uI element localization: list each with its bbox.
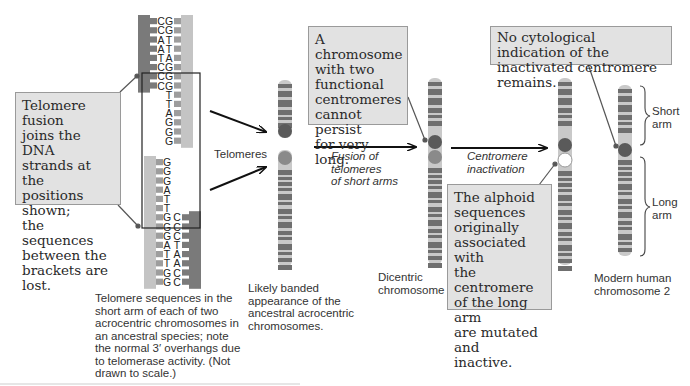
dicentric-callout-line: with two (315, 62, 401, 77)
modern-chromosome-2 (618, 85, 632, 256)
base-rung (156, 251, 163, 257)
chromosome-band (428, 186, 442, 189)
chromosome-band (428, 235, 442, 238)
centromere-functional (428, 135, 442, 149)
dicentric-callout-leader (408, 97, 427, 142)
chromosome-band (618, 105, 632, 112)
no-indication-callout: No cytological indication of the inactiv… (490, 26, 672, 65)
chromosome-band (618, 172, 632, 176)
short-arm-line: Short (652, 105, 680, 118)
long-arm-label: Long arm (652, 196, 678, 221)
chromosome-band (278, 202, 292, 205)
chromosome-band (618, 242, 632, 245)
chromosome-band (278, 265, 292, 270)
dicentric-caption-line: Dicentric (378, 271, 444, 284)
inactivation-step-line: Centromere (467, 150, 528, 163)
chromosome-band (618, 96, 632, 102)
chromosome-band (278, 84, 292, 88)
modern-caption-line: Modern human (594, 272, 671, 285)
centromere (618, 143, 632, 157)
dna-caption-line: short arm of each of two (95, 305, 255, 318)
chromosome-band (558, 223, 572, 229)
chromosome-band (428, 250, 442, 253)
alphoid-callout-line: the centromere (454, 265, 545, 295)
chromosome-band (428, 256, 442, 260)
base-rung (182, 233, 189, 239)
chromosome-band (558, 178, 572, 181)
inactivation-step-line: inactivation (467, 163, 528, 176)
chromosome-band (278, 258, 292, 262)
fusion-callout-line: between the (22, 248, 114, 263)
alphoid-callout-line: associated with (454, 235, 545, 265)
dicentric-callout: A chromosome with two functional centrom… (308, 26, 408, 125)
base-rung (150, 55, 157, 61)
fusion-callout: Telomere fusion joins the DNA strands at… (15, 92, 121, 205)
chromosome-band (618, 234, 632, 240)
fusion-step-label: Fusion of telomeres of short arms (331, 150, 398, 188)
base-rung (174, 101, 181, 107)
modern-caption-line: chromosome 2 (594, 285, 671, 298)
long-arm-brace (640, 157, 650, 256)
chromosome-band (558, 121, 572, 126)
chromosome-band (278, 237, 292, 240)
chromosome-band (428, 115, 442, 118)
ancestral-caption: Likely banded appearance of the ancestra… (248, 282, 368, 332)
base-rung (174, 27, 181, 33)
chromosome-band (278, 117, 292, 120)
dna-caption-line: the normal 3′ overhangs due (95, 342, 255, 355)
base-rung (174, 110, 181, 116)
chromosome-band (428, 242, 442, 248)
chromosome-band (278, 252, 292, 255)
base-rung (174, 119, 181, 125)
base-rung (182, 251, 189, 257)
chromosome-band (558, 266, 572, 271)
base-rung (174, 92, 181, 98)
chromosome-band (618, 160, 632, 165)
no-indication-callout-line: No cytological indication of the (497, 30, 665, 60)
fusion-callout-line: the sequences (22, 218, 114, 248)
base-rung (182, 242, 189, 248)
chromosome-band (428, 175, 442, 178)
centromere (278, 151, 292, 165)
base-rung (182, 269, 189, 275)
base-rung (182, 279, 189, 285)
base-rung (150, 36, 157, 42)
centromere (278, 124, 292, 138)
base-rung (174, 138, 181, 144)
chromosome-band (278, 194, 292, 200)
chromosome-band (618, 128, 632, 133)
dna-top-strand: CCAATCCCGGTTAGGGTTAGGG (138, 15, 193, 148)
chromosome-band (558, 195, 572, 201)
dna-caption-line: to telomerase activity. (Not (95, 355, 255, 368)
chromosome-band (618, 206, 632, 209)
fusion-callout-line: joins the DNA (22, 128, 114, 158)
base-rung (156, 260, 163, 266)
alphoid-callout-line: originally (454, 220, 545, 235)
chromosome-band (618, 248, 632, 252)
dna-caption-line: Telomere sequences in the (95, 292, 255, 305)
chromosome-band (618, 178, 632, 181)
dna-backbone (189, 211, 201, 289)
dicentric-caption-line: chromosome (378, 284, 444, 297)
chromosome-band (618, 167, 632, 170)
chromosome-band (278, 222, 292, 228)
chromosome-band (278, 100, 292, 107)
diagram-stage: CCAATCCCGGTTAGGGTTAGGG GGGATTGGGATTGGCCC… (0, 0, 690, 386)
chromosome-band (428, 207, 442, 212)
centromere-functional-second (428, 150, 442, 164)
chromosome-band (428, 82, 442, 86)
centromere-inactivated (558, 153, 572, 167)
alphoid-callout-line: The alphoid (454, 190, 545, 205)
fusion-callout-line: Telomere fusion (22, 98, 114, 128)
chromosome-band (618, 212, 632, 218)
base-rung (174, 36, 181, 42)
base-rung (156, 242, 163, 248)
base-rung (150, 18, 157, 24)
chromosome-band (558, 203, 572, 206)
long-arm-line: Long (652, 196, 678, 209)
chromosome-band (558, 183, 572, 187)
chromosome-band (618, 184, 632, 190)
chromosome-band (558, 238, 572, 241)
fusion-callout-leaders (118, 74, 140, 228)
base-rung (182, 223, 189, 229)
